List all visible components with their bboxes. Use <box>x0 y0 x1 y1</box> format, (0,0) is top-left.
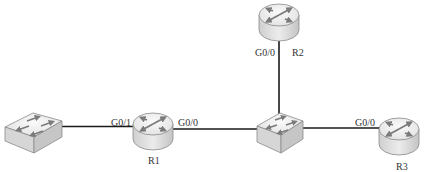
router-name-r3: R3 <box>396 162 408 172</box>
port-label-r3-g00: G0/0 <box>355 118 375 128</box>
switch-icon[interactable] <box>257 113 303 153</box>
switch-icon[interactable] <box>5 113 62 153</box>
port-label-r2-g00: G0/0 <box>255 48 275 58</box>
network-diagram <box>0 0 431 172</box>
router-icon[interactable] <box>133 113 173 150</box>
router-name-r2: R2 <box>292 48 304 58</box>
router-icon[interactable] <box>259 4 299 41</box>
port-label-r1-g01: G0/1 <box>111 118 131 128</box>
links <box>62 40 380 129</box>
router-icon[interactable] <box>379 118 419 155</box>
port-label-r1-g00: G0/0 <box>178 118 198 128</box>
router-name-r1: R1 <box>148 156 160 166</box>
